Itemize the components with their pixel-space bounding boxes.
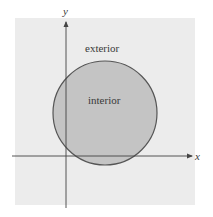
interior-label: interior	[88, 94, 121, 106]
region-diagram: x y exterior interior	[0, 0, 213, 217]
interior-disk	[53, 61, 157, 165]
x-axis-label: x	[194, 150, 200, 162]
y-axis-label: y	[62, 5, 68, 17]
exterior-label: exterior	[85, 42, 120, 54]
